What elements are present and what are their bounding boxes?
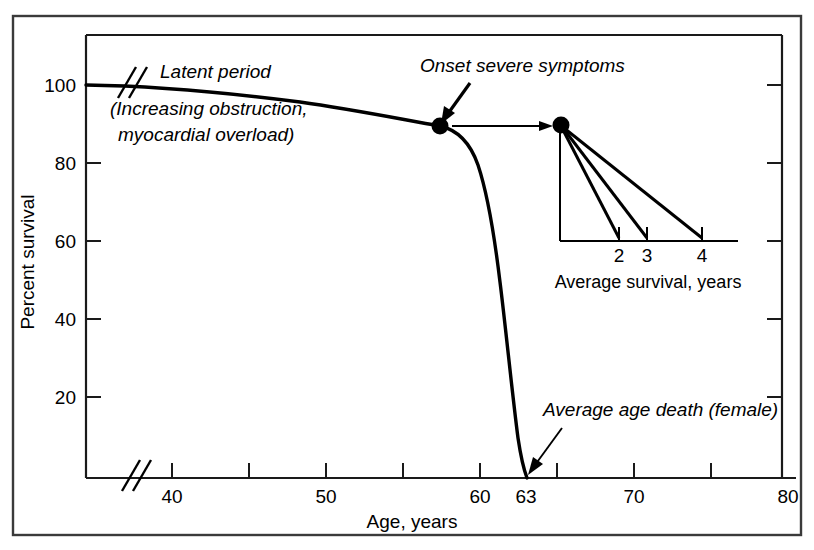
- onset-callout-arrow-icon: [441, 83, 470, 124]
- inset-chart: 2 3 4 Average survival, years: [553, 117, 742, 293]
- y-tick-label-40: 40: [55, 309, 76, 330]
- y-tick-label-60: 60: [55, 231, 76, 252]
- y-axis-title: Percent survival: [17, 194, 38, 329]
- y-axis-ticks-right: [767, 85, 782, 397]
- x-axis-break-icon: [122, 460, 151, 491]
- y-tick-label-20: 20: [55, 387, 76, 408]
- x-tick-label-63: 63: [515, 486, 536, 507]
- inset-link-arrow-icon: [452, 121, 553, 131]
- annotation-latent-period: Latent period: [160, 61, 272, 82]
- y-axis-ticks-left: [86, 85, 101, 397]
- annotation-latent-detail-1: (Increasing obstruction,: [110, 98, 308, 119]
- x-tick-label-50: 50: [315, 486, 336, 507]
- x-tick-label-60: 60: [469, 486, 490, 507]
- annotation-onset-severe-symptoms: Onset severe symptoms: [420, 55, 625, 76]
- x-axis-title: Age, years: [367, 511, 458, 532]
- inset-caption: Average survival, years: [555, 272, 742, 292]
- inset-tick-label-4: 4: [697, 245, 708, 266]
- inset-ray-2: [562, 128, 619, 238]
- inset-tick-label-2: 2: [614, 245, 625, 266]
- survival-curve-figure: 100 80 60 40 20 Percent survival 40 50 6…: [0, 0, 814, 550]
- x-tick-label-80: 80: [777, 486, 798, 507]
- annotation-latent-detail-2: myocardial overload): [118, 124, 294, 145]
- x-axis-ticks: [172, 463, 782, 478]
- x-tick-label-70: 70: [623, 486, 644, 507]
- y-tick-label-80: 80: [55, 153, 76, 174]
- y-tick-label-100: 100: [44, 75, 76, 96]
- curve-break-icon: [118, 67, 147, 98]
- annotation-average-age-death: Average age death (female): [542, 399, 778, 420]
- inset-tick-label-3: 3: [642, 245, 653, 266]
- x-tick-label-40: 40: [161, 486, 182, 507]
- figure-container: 100 80 60 40 20 Percent survival 40 50 6…: [0, 0, 814, 550]
